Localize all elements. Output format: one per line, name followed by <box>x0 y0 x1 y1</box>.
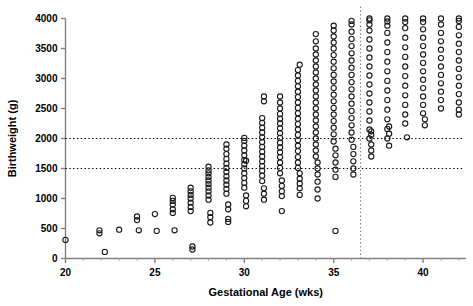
data-point <box>420 86 425 91</box>
y-tick-label-4000: 4000 <box>35 13 58 24</box>
data-point <box>385 98 390 103</box>
data-point <box>295 95 300 100</box>
data-point <box>331 139 336 144</box>
data-point <box>313 82 318 87</box>
data-point <box>385 69 390 74</box>
data-point <box>313 31 318 36</box>
data-point <box>331 105 336 110</box>
data-point <box>420 44 425 49</box>
data-point <box>313 130 318 135</box>
data-point <box>438 22 443 27</box>
data-point <box>369 148 374 153</box>
data-point <box>403 74 408 79</box>
y-tick-label-500: 500 <box>41 223 58 234</box>
data-point <box>277 160 282 165</box>
data-point <box>277 106 282 111</box>
data-point <box>243 198 248 203</box>
data-point <box>313 142 318 147</box>
data-point <box>438 39 443 44</box>
data-point <box>403 45 408 50</box>
data-point <box>420 102 425 107</box>
data-point <box>295 73 300 78</box>
data-point <box>313 46 318 51</box>
data-point <box>349 65 354 70</box>
data-point <box>331 112 336 117</box>
data-point <box>295 89 300 94</box>
data-point <box>331 46 336 51</box>
data-point <box>349 123 354 128</box>
data-point <box>420 60 425 65</box>
data-point <box>387 143 392 148</box>
y-tick-label-2000: 2000 <box>35 133 58 144</box>
data-point <box>295 100 300 105</box>
data-point <box>134 214 139 219</box>
data-point <box>277 165 282 170</box>
data-point <box>313 112 318 117</box>
data-point <box>438 47 443 52</box>
data-point <box>420 111 425 116</box>
data-point <box>297 192 302 197</box>
data-point <box>295 155 300 160</box>
data-point <box>385 78 390 83</box>
data-point <box>315 187 320 192</box>
data-point <box>369 142 374 147</box>
data-point <box>331 92 336 97</box>
chart-canvas: 0500100015002000250030003500400020253035… <box>0 0 473 306</box>
x-tick-label-25: 25 <box>149 267 161 278</box>
data-point <box>277 100 282 105</box>
data-point <box>315 179 320 184</box>
data-point <box>349 80 354 85</box>
data-point <box>333 153 338 158</box>
data-point <box>349 101 354 106</box>
data-point <box>456 83 461 88</box>
data-point <box>313 124 318 129</box>
data-point <box>331 79 336 84</box>
data-point <box>351 144 356 149</box>
data-point <box>331 34 336 39</box>
data-point <box>403 121 408 126</box>
data-point <box>313 70 318 75</box>
data-point <box>438 81 443 86</box>
data-point <box>295 132 300 137</box>
data-point <box>331 132 336 137</box>
data-point <box>403 102 408 107</box>
data-point <box>385 30 390 35</box>
y-tick-label-1500: 1500 <box>35 163 58 174</box>
data-point <box>313 39 318 44</box>
data-point <box>349 72 354 77</box>
data-point <box>369 154 374 159</box>
data-point <box>385 107 390 112</box>
scatter-plot-figure: 0500100015002000250030003500400020253035… <box>0 0 473 306</box>
data-point <box>420 27 425 32</box>
data-point <box>295 84 300 89</box>
y-axis-title: Birthweight (g) <box>6 99 18 177</box>
data-point <box>331 119 336 124</box>
data-point <box>313 64 318 69</box>
data-point <box>313 148 318 153</box>
data-point <box>420 52 425 57</box>
data-point <box>279 178 284 183</box>
data-point <box>295 78 300 83</box>
data-point <box>420 35 425 40</box>
data-point <box>295 160 300 165</box>
data-point <box>333 146 338 151</box>
data-point <box>313 154 318 159</box>
data-point <box>315 196 320 201</box>
data-point <box>387 131 392 136</box>
data-point <box>279 209 284 214</box>
data-point <box>261 186 266 191</box>
data-point <box>385 40 390 45</box>
data-point <box>456 58 461 63</box>
data-point <box>349 29 354 34</box>
data-point <box>277 94 282 99</box>
data-point <box>333 174 338 179</box>
data-point <box>422 123 427 128</box>
data-point <box>403 35 408 40</box>
data-point <box>295 105 300 110</box>
x-axis-title: Gestational Age (wks) <box>208 286 323 298</box>
data-point <box>403 93 408 98</box>
data-point <box>295 127 300 132</box>
data-point <box>367 91 372 96</box>
data-point <box>438 106 443 111</box>
data-point <box>261 191 266 196</box>
